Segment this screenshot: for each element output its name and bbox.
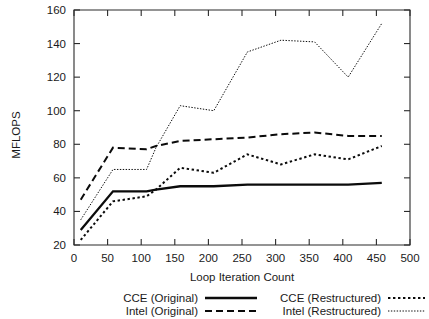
x-tick-label: 350: [300, 252, 319, 264]
x-tick-label: 150: [165, 252, 184, 264]
x-axis-ticks: [74, 10, 410, 245]
y-tick-label: 20: [53, 239, 66, 251]
y-tick-label: 120: [47, 71, 66, 83]
series-line-cce-restructured: [81, 146, 382, 240]
legend-label-cce-original: CCE (Original): [123, 292, 198, 304]
legend-label-intel-original: Intel (Original): [126, 305, 198, 317]
y-tick-label: 40: [53, 205, 66, 217]
x-tick-label: 400: [333, 252, 352, 264]
x-tick-label: 450: [367, 252, 386, 264]
x-axis-tick-labels: 050100150200250300350400450500: [71, 252, 420, 264]
y-tick-label: 60: [53, 172, 66, 184]
series-line-intel-original: [81, 133, 382, 200]
data-series-group: [81, 23, 382, 240]
plot-frame: [74, 10, 410, 245]
x-tick-label: 0: [71, 252, 77, 264]
x-tick-label: 50: [101, 252, 114, 264]
series-line-cce-original: [81, 183, 382, 230]
mflops-line-chart: 20406080100120140160 0501001502002503003…: [0, 0, 429, 319]
chart-legend: CCE (Original)Intel (Original)CCE (Restr…: [123, 292, 425, 317]
y-axis-title: MFLOPS: [10, 111, 22, 159]
x-tick-label: 300: [266, 252, 285, 264]
x-tick-label: 200: [199, 252, 218, 264]
y-tick-label: 80: [53, 138, 66, 150]
y-axis-ticks: [74, 10, 410, 245]
x-tick-label: 250: [232, 252, 251, 264]
y-tick-label: 160: [47, 4, 66, 16]
y-axis-tick-labels: 20406080100120140160: [47, 4, 66, 251]
x-tick-label: 100: [132, 252, 151, 264]
legend-label-cce-restructured: CCE (Restructured): [280, 292, 381, 304]
x-tick-label: 500: [400, 252, 419, 264]
y-tick-label: 100: [47, 105, 66, 117]
legend-label-intel-restructured: Intel (Restructured): [283, 305, 382, 317]
y-tick-label: 140: [47, 38, 66, 50]
x-axis-title: Loop Iteration Count: [190, 271, 295, 283]
chart-figure: 20406080100120140160 0501001502002503003…: [0, 0, 429, 319]
